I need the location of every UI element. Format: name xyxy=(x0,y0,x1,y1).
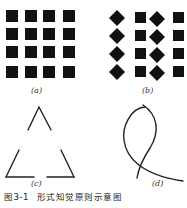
panel-b-label: (b) xyxy=(142,86,153,95)
panel-c-label: (c) xyxy=(31,179,42,188)
panel-a-label: (a) xyxy=(31,86,42,95)
figure-caption: 图3-1形式知觉原则示意图 xyxy=(4,190,122,202)
figure-title: 形式知觉原则示意图 xyxy=(37,192,123,202)
figure-canvas xyxy=(0,0,187,208)
panel-b-diamond-square-grid xyxy=(109,10,184,81)
panel-d-label: (d) xyxy=(152,179,163,188)
figure-number: 图3-1 xyxy=(4,192,29,202)
panel-a-square-grid xyxy=(6,10,75,78)
panel-d-crossing-curves xyxy=(124,105,183,181)
panel-c-broken-triangle xyxy=(6,107,74,177)
